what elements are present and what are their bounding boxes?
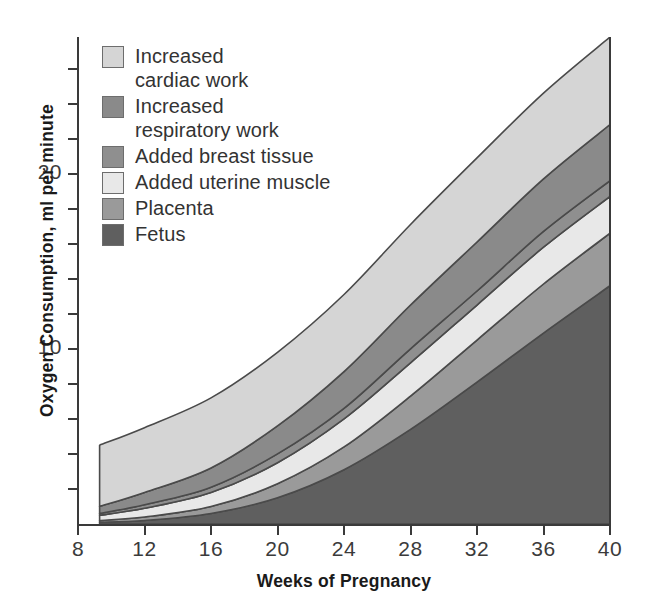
y-tick	[68, 103, 77, 105]
x-tick	[210, 526, 212, 535]
y-tick	[68, 243, 77, 245]
legend-label: Added breast tissue	[135, 144, 314, 168]
legend-swatch-icon	[102, 198, 124, 220]
legend-swatch-icon	[102, 146, 124, 168]
legend-item: Added uterine muscle	[102, 170, 402, 194]
y-tick	[68, 138, 77, 140]
legend-item: Placenta	[102, 196, 402, 220]
x-tick-label: 32	[454, 537, 500, 561]
x-tick	[144, 526, 146, 535]
y-axis-line	[77, 37, 79, 526]
y-tick	[68, 488, 77, 490]
y-tick	[68, 278, 77, 280]
x-tick-label: 28	[388, 537, 434, 561]
x-tick	[343, 526, 345, 535]
right-axis-line	[609, 37, 611, 526]
x-tick-label: 8	[55, 537, 101, 561]
chart-legend: Increased cardiac workIncreased respirat…	[102, 44, 402, 248]
x-tick-label: 20	[255, 537, 301, 561]
x-tick-label: 36	[521, 537, 567, 561]
x-tick-label: 24	[321, 537, 367, 561]
legend-swatch-icon	[102, 96, 124, 118]
legend-label: Fetus	[135, 222, 186, 246]
y-tick	[68, 418, 77, 420]
y-tick	[68, 173, 77, 175]
legend-item: Added breast tissue	[102, 144, 402, 168]
y-tick	[68, 208, 77, 210]
x-tick	[609, 526, 611, 535]
y-tick	[68, 453, 77, 455]
legend-item: Increased cardiac work	[102, 44, 402, 92]
legend-item: Increased respiratory work	[102, 94, 402, 142]
x-tick	[543, 526, 545, 535]
y-axis-title: Oxygen Consumption, ml per minute	[37, 51, 58, 471]
y-tick	[68, 313, 77, 315]
y-tick	[68, 383, 77, 385]
y-tick	[68, 68, 77, 70]
legend-swatch-icon	[102, 224, 124, 246]
x-tick	[77, 526, 79, 535]
legend-label: Added uterine muscle	[135, 170, 330, 194]
legend-item: Fetus	[102, 222, 402, 246]
legend-label: Increased respiratory work	[135, 94, 279, 142]
x-tick	[410, 526, 412, 535]
x-tick-label: 16	[188, 537, 234, 561]
legend-swatch-icon	[102, 172, 124, 194]
legend-label: Placenta	[135, 196, 214, 220]
x-tick-label: 40	[587, 537, 633, 561]
legend-swatch-icon	[102, 46, 124, 68]
x-tick	[277, 526, 279, 535]
legend-label: Increased cardiac work	[135, 44, 248, 92]
x-axis-title: Weeks of Pregnancy	[78, 571, 610, 592]
x-tick	[476, 526, 478, 535]
y-tick	[68, 348, 77, 350]
chart-figure: 1020 81216202428323640 Oxygen Consumptio…	[0, 0, 645, 603]
x-tick-label: 12	[122, 537, 168, 561]
